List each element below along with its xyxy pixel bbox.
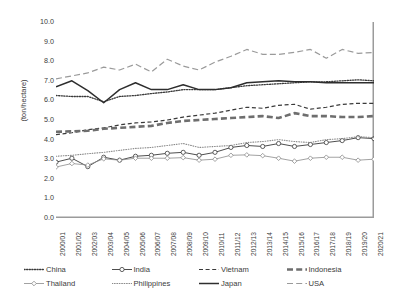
data-point-thailand xyxy=(181,155,186,160)
x-tick-label: 2004/05 xyxy=(123,216,130,256)
data-point-thailand xyxy=(372,157,374,162)
x-tick-label: 2020/21 xyxy=(377,216,384,256)
y-tick-label: 5.0 xyxy=(20,116,54,124)
data-point-thailand xyxy=(229,153,234,158)
data-point-thailand xyxy=(356,158,361,163)
y-tick-label: 9.0 xyxy=(20,38,54,46)
legend-swatch-usa-icon xyxy=(287,279,307,288)
data-point-india xyxy=(165,151,169,155)
x-tick-label: 2008/09 xyxy=(186,216,193,256)
legend-item-japan[interactable]: Japan xyxy=(199,279,287,288)
chart-legend: ChinaIndiaVietnamIndonesiaThailandPhilip… xyxy=(24,262,374,292)
y-tick-label: 10.0 xyxy=(20,18,54,26)
data-point-thailand xyxy=(260,153,265,158)
x-tick-label: 2018/19 xyxy=(345,216,352,256)
data-point-india xyxy=(324,140,328,144)
x-tick-label: 2005/06 xyxy=(139,216,146,256)
data-point-india xyxy=(213,150,217,154)
legend-item-india[interactable]: India xyxy=(112,265,200,274)
x-axis-tick-labels: 2000/012001/022002/032003/042004/052005/… xyxy=(56,220,374,258)
x-tick-label: 2012/13 xyxy=(250,216,257,256)
legend-item-philippines[interactable]: Philippines xyxy=(112,279,200,288)
legend-label-vietnam: Vietnam xyxy=(221,265,249,274)
y-tick-label: 8.0 xyxy=(20,57,54,65)
plot-area xyxy=(56,22,374,218)
y-axis-tick-labels: 0.01.02.03.04.05.06.07.08.09.010.0 xyxy=(16,22,54,218)
data-point-thailand xyxy=(324,155,329,160)
legend-item-usa[interactable]: USA xyxy=(287,279,375,288)
x-tick-label: 2010/11 xyxy=(218,216,225,256)
data-point-india xyxy=(292,144,296,148)
y-tick-label: 3.0 xyxy=(20,155,54,163)
series-line-japan xyxy=(56,81,374,103)
legend-swatch-thailand-icon xyxy=(24,279,44,288)
data-point-thailand xyxy=(308,156,313,161)
x-tick-label: 2007/08 xyxy=(170,216,177,256)
legend-label-china: China xyxy=(46,265,66,274)
x-tick-label: 2013/14 xyxy=(266,216,273,256)
data-point-thailand xyxy=(340,155,345,160)
legend-label-usa: USA xyxy=(309,279,325,288)
data-point-thailand xyxy=(213,157,218,162)
x-tick-label: 2015/16 xyxy=(298,216,305,256)
x-tick-label: 2001/02 xyxy=(75,216,82,256)
data-point-india xyxy=(277,141,281,145)
plot-svg xyxy=(56,22,374,218)
legend-swatch-indonesia-icon xyxy=(287,265,307,274)
data-point-india xyxy=(181,150,185,154)
data-point-thailand xyxy=(56,165,58,170)
legend-label-philippines: Philippines xyxy=(134,279,171,288)
data-point-thailand xyxy=(165,156,170,161)
legend-item-thailand[interactable]: Thailand xyxy=(24,279,112,288)
legend-item-vietnam[interactable]: Vietnam xyxy=(199,265,287,274)
data-point-india xyxy=(356,136,360,140)
data-point-thailand xyxy=(276,156,281,161)
data-point-india xyxy=(70,156,74,160)
data-point-india xyxy=(308,142,312,146)
legend-item-indonesia[interactable]: Indonesia xyxy=(287,265,375,274)
y-tick-label: 2.0 xyxy=(20,175,54,183)
legend-swatch-vietnam-icon xyxy=(199,265,219,274)
y-tick-label: 6.0 xyxy=(20,96,54,104)
legend-label-japan: Japan xyxy=(221,279,242,288)
data-point-thailand xyxy=(245,153,250,158)
x-tick-label: 2017/18 xyxy=(329,216,336,256)
data-point-india xyxy=(245,143,249,147)
legend-item-china[interactable]: China xyxy=(24,265,112,274)
data-point-india xyxy=(261,144,265,148)
series-line-indonesia xyxy=(56,113,374,132)
y-tick-label: 1.0 xyxy=(20,194,54,202)
legend-label-indonesia: Indonesia xyxy=(309,265,342,274)
data-point-thailand xyxy=(292,159,297,164)
x-tick-label: 2000/01 xyxy=(59,216,66,256)
data-point-india xyxy=(56,160,58,164)
x-tick-label: 2003/04 xyxy=(107,216,114,256)
y-tick-label: 4.0 xyxy=(20,136,54,144)
legend-swatch-japan-icon xyxy=(199,279,219,288)
legend-swatch-india-icon xyxy=(112,265,132,274)
legend-label-thailand: Thailand xyxy=(46,279,75,288)
x-tick-label: 2016/17 xyxy=(313,216,320,256)
x-tick-label: 2002/03 xyxy=(91,216,98,256)
x-tick-label: 2019/20 xyxy=(361,216,368,256)
legend-label-india: India xyxy=(134,265,150,274)
line-chart: (ton/hectare) 0.01.02.03.04.05.06.07.08.… xyxy=(0,0,394,299)
y-tick-label: 7.0 xyxy=(20,77,54,85)
data-point-thailand xyxy=(70,161,75,166)
x-tick-label: 2009/10 xyxy=(202,216,209,256)
x-tick-label: 2006/07 xyxy=(154,216,161,256)
series-line-usa xyxy=(56,49,374,78)
x-tick-label: 2011/12 xyxy=(234,216,241,256)
legend-swatch-philippines-icon xyxy=(112,279,132,288)
x-tick-label: 2014/15 xyxy=(282,216,289,256)
legend-swatch-china-icon xyxy=(24,265,44,274)
y-tick-label: 0.0 xyxy=(20,214,54,222)
data-point-india xyxy=(197,153,201,157)
data-point-thailand xyxy=(197,158,202,163)
